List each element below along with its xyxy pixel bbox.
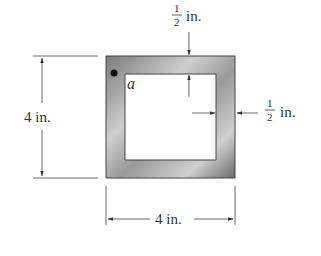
point-a-label: a <box>127 75 135 92</box>
right-thickness-denominator: 2 <box>267 111 273 123</box>
height-label: 4 in. <box>24 109 51 125</box>
top-thickness-numerator: 1 <box>174 2 180 14</box>
point-a-marker <box>111 70 118 77</box>
width-label: 4 in. <box>155 211 182 227</box>
right-thickness-dimension: 1 2 in. <box>192 97 295 123</box>
tube-cross-section-diagram: a 4 in. 4 in. 1 2 in. 1 2 in. <box>0 0 321 256</box>
right-thickness-numerator: 1 <box>267 97 273 109</box>
top-thickness-denominator: 2 <box>174 16 180 28</box>
top-thickness-unit: in. <box>186 8 201 24</box>
tube-wall <box>106 56 235 178</box>
top-thickness-dimension: 1 2 in. <box>172 2 201 97</box>
right-thickness-unit: in. <box>280 104 295 120</box>
